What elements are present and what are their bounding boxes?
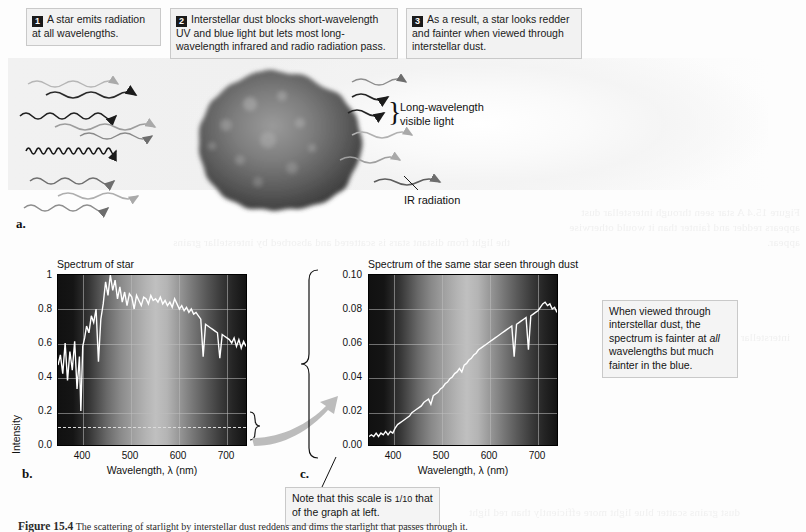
note-line-4: wavelengths but (609, 345, 685, 357)
chart-c-plot-area (368, 274, 558, 446)
ray-incoming-7 (30, 178, 114, 184)
chart-b-ytick-2: 0.4 (14, 371, 52, 382)
note-line-3: spectrum is fainter at (609, 332, 706, 344)
ray-incoming-6-uv (26, 148, 116, 154)
step-number-3: 3 (412, 16, 423, 27)
step-number-2: 2 (176, 16, 187, 27)
chart-c-title: Spectrum of the same star seen through d… (368, 258, 578, 270)
ray-incoming-4 (55, 124, 155, 130)
note-viewed-through-dust: When viewed through interstellar dust, t… (602, 300, 738, 378)
ray-outgoing-visible-1 (352, 94, 388, 100)
step-text-3: As a result, a star looks redder and fai… (412, 13, 569, 52)
scale-note-text-a: Note that this scale is (292, 492, 395, 504)
chart-b-ytick-1: 0.2 (14, 405, 52, 416)
step-caption-2: 2Interstellar dust blocks short-waveleng… (170, 8, 398, 59)
ray-incoming-9 (24, 205, 108, 211)
note-emphasis-all: all (709, 332, 720, 344)
chart-b-ytick-4: 0.8 (14, 303, 52, 314)
step-number-1: 1 (32, 16, 43, 27)
chart-b-xtick-500: 500 (110, 450, 150, 461)
chart-b-ytick-0: 0.0 (14, 439, 52, 450)
panel-letter-a: a. (16, 216, 26, 232)
ray-incoming-8 (58, 193, 138, 199)
panel-letter-b: b. (22, 466, 32, 482)
step-text-2: Interstellar dust blocks short-wavelengt… (176, 13, 386, 52)
figure-caption: Figure 15.4 The scattering of starlight … (18, 520, 798, 532)
interstellar-dust-cloud (199, 70, 363, 211)
scale-note-fraction: 1/10 (395, 494, 413, 504)
chart-b-spectrum-trace (58, 275, 246, 445)
chart-c-xtick-600: 600 (469, 450, 509, 461)
chart-b-title: Spectrum of star (57, 258, 134, 270)
scale-brace-large (300, 266, 324, 462)
ray-outgoing-ir-2 (374, 179, 440, 185)
figure-caption-text: The scattering of starlight by interstel… (76, 521, 468, 532)
figure-page: Figure 15.4 A star seen through interste… (0, 0, 806, 532)
chart-b-ytick-3: 0.6 (14, 337, 52, 348)
page-bleed-through-2: the light from distant stars is scattere… (30, 235, 510, 250)
chart-b-ytick-5: 1 (14, 269, 52, 280)
chart-b-plot-area (57, 274, 247, 446)
step-text-1: A star emits radiation at all wavelength… (32, 13, 145, 39)
chart-b-xtick-600: 600 (158, 450, 198, 461)
zoom-arrow-icon (252, 396, 338, 446)
step-caption-3: 3As a result, a star looks redder and fa… (406, 8, 582, 59)
step-caption-1: 1A star emits radiation at all wavelengt… (26, 8, 161, 46)
scale-note-leader (318, 455, 342, 491)
ray-outgoing-top (352, 79, 406, 85)
chart-c-xtick-700: 700 (517, 450, 557, 461)
ray-incoming-1 (28, 81, 118, 87)
chart-c-spectrum-trace (369, 275, 557, 445)
chart-b-xlabel: Wavelength, λ (nm) (57, 464, 247, 476)
chart-c-xlabel: Wavelength, λ (nm) (368, 464, 558, 476)
panel-a-illustration: 1A star emits radiation at all wavelengt… (0, 0, 806, 232)
note-line-2: interstellar dust, the (609, 318, 701, 330)
figure-caption-number: Figure 15.4 (18, 520, 73, 532)
ray-incoming-3 (20, 113, 116, 119)
small-brace-icon (250, 412, 260, 440)
ray-incoming-5 (80, 133, 152, 139)
chart-b-xtick-400: 400 (62, 450, 102, 461)
chart-c-xtick-500: 500 (421, 450, 461, 461)
note-line-1: When viewed through (609, 305, 711, 317)
long-wavelength-visible-light-label: Long-wavelength visible light (400, 100, 510, 128)
ray-incoming-2 (46, 92, 136, 98)
ir-radiation-label: IR radiation (404, 193, 494, 207)
